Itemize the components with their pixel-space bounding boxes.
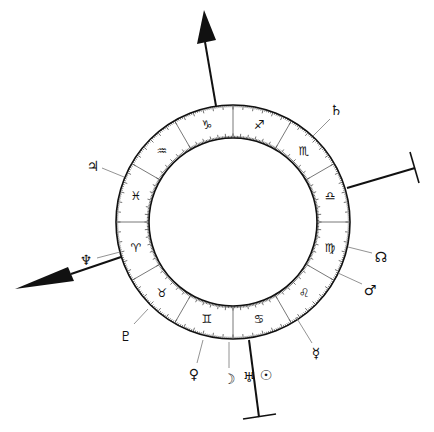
venus-glyph: ♀ xyxy=(189,366,199,382)
midheaven-axis-arrowhead xyxy=(197,10,216,44)
pluto-glyph: ♇ xyxy=(120,328,133,344)
sign-glyph-leo: ♌ xyxy=(299,286,310,300)
venus-leader-line xyxy=(197,340,203,363)
ascendant-axis-arrowhead xyxy=(15,267,74,289)
saturn-leader-line xyxy=(313,119,330,136)
ascendant-axis-line xyxy=(71,257,121,274)
astrological-chart: ♎♏♐♑♒♓♈♉♊♋♌♍ ♄♃♆♇♀☽♅☉☿♂☊ xyxy=(0,0,434,432)
mars-glyph: ♂ xyxy=(364,282,377,298)
sign-glyph-scorpio: ♏ xyxy=(299,144,310,158)
descendant-axis-end-bar xyxy=(410,152,419,183)
mercury-glyph: ☿ xyxy=(312,345,321,361)
midheaven-axis-line xyxy=(205,42,216,106)
jupiter-leader-line xyxy=(102,168,124,177)
sign-glyph-taurus: ♉ xyxy=(157,286,168,300)
sign-glyph-gemini: ♊ xyxy=(202,312,213,326)
descendant-axis-line xyxy=(347,168,415,188)
mars-leader-line xyxy=(338,273,362,284)
sign-glyph-cancer: ♋ xyxy=(254,312,265,326)
ring-inner-edge xyxy=(149,138,317,306)
sign-glyph-pisces: ♓ xyxy=(131,189,142,203)
neptune-leader-line xyxy=(97,252,120,258)
north-node-glyph: ☊ xyxy=(375,249,387,265)
north-node-leader-line xyxy=(348,247,372,253)
sign-glyph-aries: ♈ xyxy=(131,241,142,255)
saturn-glyph: ♄ xyxy=(330,102,343,118)
mercury-leader-line xyxy=(296,317,312,343)
sign-glyph-libra: ♎ xyxy=(325,189,336,203)
sign-glyph-aquarius: ♒ xyxy=(157,144,168,158)
moon-glyph: ☽ xyxy=(223,371,236,387)
zodiac-ring: ♎♏♐♑♒♓♈♉♊♋♌♍ xyxy=(116,105,350,339)
jupiter-glyph: ♃ xyxy=(87,158,100,174)
sun-glyph: ☉ xyxy=(260,367,273,383)
sign-glyph-capricorn: ♑ xyxy=(202,118,213,132)
sign-glyph-sagittarius: ♐ xyxy=(254,118,265,132)
uranus-glyph: ♅ xyxy=(243,369,256,385)
pluto-leader-line xyxy=(134,309,148,324)
neptune-glyph: ♆ xyxy=(80,252,93,268)
sign-glyph-virgo: ♍ xyxy=(325,241,336,255)
